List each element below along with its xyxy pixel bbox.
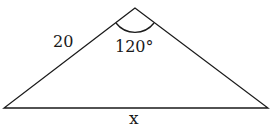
side-length-label: 20	[53, 34, 73, 50]
angle-arc	[116, 23, 154, 32]
triangle	[4, 8, 268, 108]
angle-label: 120°	[115, 39, 154, 55]
base-label: x	[129, 110, 139, 127]
